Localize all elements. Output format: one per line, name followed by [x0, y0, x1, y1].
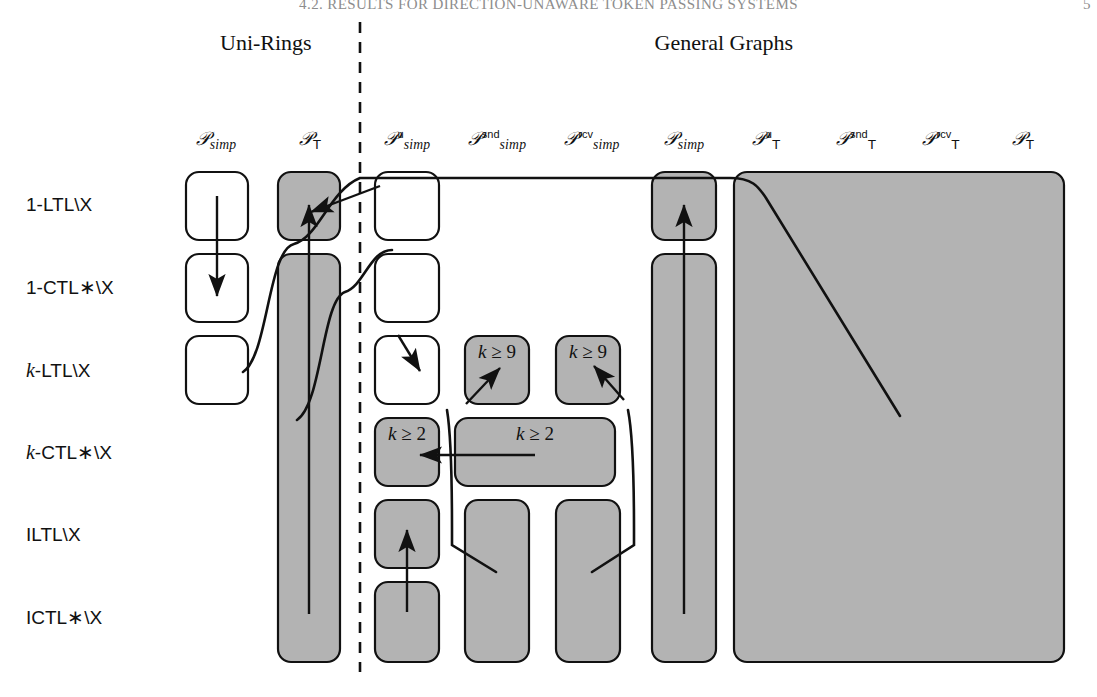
box-gg-simpsnd-r5: [465, 500, 529, 662]
column-header-gg_T_rcv: 𝒫rcvT: [922, 128, 959, 152]
note-k-ge-9-snd: k ≥ 9: [478, 341, 516, 363]
box-layer: [186, 172, 1064, 662]
note-k-ge-9-rcv: k ≥ 9: [569, 341, 607, 363]
row-label-r3: k-LTL\X: [26, 359, 90, 382]
group-label-uni-rings: Uni-Rings: [220, 30, 312, 56]
column-header-gg_T_snd: 𝒫sndT: [836, 128, 876, 152]
column-header-gg_simp_r: 𝒫rcvsimp: [564, 128, 619, 153]
row-label-r6: ICTL∗\X: [26, 605, 102, 629]
row-label-r1: 1-LTL\X: [26, 194, 92, 216]
box-gg-T-all: [734, 172, 1064, 662]
box-gg-simprcv-r5: [556, 500, 620, 662]
column-header-gg_simp_u: 𝒫usimp: [384, 128, 431, 153]
row-label-r2: 1-CTL∗\X: [26, 275, 114, 299]
note-k-ge-2-u: k ≥ 2: [388, 423, 426, 445]
column-header-gg_simp_s: 𝒫sndsimp: [468, 128, 526, 153]
group-label-general-graphs: General Graphs: [655, 30, 794, 56]
column-header-ur_T: 𝒫T: [299, 128, 321, 152]
column-header-gg_T: 𝒫T: [1012, 128, 1034, 152]
row-label-r4: k-CTL∗\X: [26, 440, 112, 464]
note-k-ge-2-snd: k ≥ 2: [516, 423, 554, 445]
box-gg-simpu-r1: [375, 172, 439, 240]
box-gg-simpu-r3: [375, 336, 439, 404]
column-header-ur_simp: 𝒫simp: [196, 128, 237, 153]
box-gg-simpu-r2: [375, 254, 439, 322]
column-header-gg_simp: 𝒫simp: [664, 128, 705, 153]
box-ur-simp-r3: [186, 336, 248, 404]
figure-canvas: [0, 0, 1097, 697]
column-header-gg_T_u: 𝒫uT: [752, 128, 781, 152]
row-label-r5: ILTL\X: [26, 524, 81, 546]
